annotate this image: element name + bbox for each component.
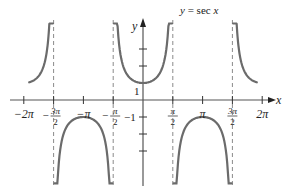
svg-text:2: 2 xyxy=(230,117,235,127)
svg-text:3π: 3π xyxy=(227,106,238,116)
x-tick-label: π2− xyxy=(102,106,120,127)
sec-curve-branch xyxy=(29,24,53,83)
sec-function-graph: −2π3π2−−ππ2−π2π3π22π y x 1 −1 y = sec x xyxy=(0,0,286,186)
sec-curve-branch xyxy=(174,117,232,183)
svg-text:π: π xyxy=(113,106,118,116)
svg-text:−: − xyxy=(42,109,48,121)
svg-text:2π: 2π xyxy=(256,107,269,121)
sec-curve-branch xyxy=(54,117,112,183)
x-axis-label: x xyxy=(275,93,282,107)
svg-text:−: − xyxy=(102,109,108,121)
x-tick-label: −π xyxy=(76,107,91,121)
svg-text:2: 2 xyxy=(53,117,58,127)
axes xyxy=(10,18,276,186)
x-tick-label: 3π2− xyxy=(42,106,60,127)
x-tick-label: 3π2 xyxy=(227,106,238,127)
svg-text:π: π xyxy=(171,106,176,116)
x-tick-label: 2π xyxy=(256,107,269,121)
x-tick-label: −2π xyxy=(14,107,35,121)
y-axis-arrow-icon xyxy=(140,18,146,27)
x-tick-label: π xyxy=(200,107,207,121)
svg-text:−2π: −2π xyxy=(14,107,35,121)
svg-text:3π: 3π xyxy=(50,106,61,116)
y-tick-label-neg1: −1 xyxy=(124,111,136,123)
x-axis-arrow-icon xyxy=(268,97,276,103)
x-tick-label: π2 xyxy=(168,106,178,127)
y-tick-label-1: 1 xyxy=(134,85,140,97)
svg-text:π: π xyxy=(200,107,207,121)
svg-text:2: 2 xyxy=(113,117,118,127)
svg-text:−π: −π xyxy=(76,107,91,121)
sec-curve-branch xyxy=(233,24,257,83)
svg-text:2: 2 xyxy=(171,117,176,127)
y-axis-label: y xyxy=(131,19,138,33)
chart-title: y = sec x xyxy=(179,4,218,16)
